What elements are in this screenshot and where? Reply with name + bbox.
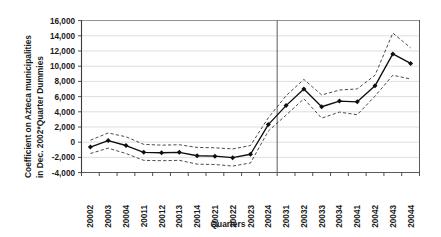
y-tick-labels: 16,000 14,000 12,000 10,000 8,000 6,000 … (50, 17, 75, 178)
y-axis-title: Coefficient on Azteca municipalities in … (23, 35, 45, 178)
y-gridlines (82, 21, 419, 158)
x-tick-label: 20043 (389, 205, 398, 228)
data-point-marker (141, 150, 146, 155)
data-point-marker (212, 154, 217, 159)
y-tick-label: 8,000 (55, 77, 76, 86)
x-tick-label: 20031 (282, 205, 291, 228)
y-tick-label: -4,000 (52, 169, 76, 178)
y-axis (78, 21, 82, 173)
x-tick-label: 20011 (140, 205, 149, 228)
data-point-marker (230, 155, 235, 160)
coefficient-series-markers (88, 51, 413, 160)
x-tick-label: 20041 (353, 205, 362, 228)
y-tick-label: 4,000 (55, 108, 76, 117)
y-tick-label: 10,000 (50, 62, 75, 71)
x-tick-label: 20034 (335, 205, 344, 228)
x-tick-label: 20013 (175, 205, 184, 228)
data-point-marker (337, 99, 342, 104)
y-tick-label: 16,000 (50, 17, 75, 26)
x-tick-label: 20003 (104, 205, 113, 228)
coefficient-line-chart: Coefficient on Azteca municipalities in … (0, 0, 441, 237)
y-axis-title-line2: in Dec. 2002*Quarter Dummies (35, 56, 45, 178)
x-tick-label: 20042 (371, 205, 380, 228)
x-tick-label: 20024 (264, 205, 273, 228)
x-axis-ticks (82, 173, 420, 177)
x-axis-title: Quarters (211, 219, 246, 229)
x-tick-label: 20014 (193, 205, 202, 228)
x-tick-label: 20004 (122, 205, 131, 228)
data-point-marker (159, 150, 164, 155)
data-point-marker (88, 145, 93, 150)
x-tick-labels: 2000220003200042001120012200132001420021… (86, 205, 415, 228)
x-tick-label: 20033 (318, 205, 327, 228)
y-tick-label: 2,000 (55, 123, 76, 132)
y-tick-label: 0 (70, 138, 75, 147)
chart-container: Coefficient on Azteca municipalities in … (0, 0, 441, 237)
y-tick-label: -2,000 (52, 153, 76, 162)
y-axis-title-line1: Coefficient on Azteca municipalities (23, 35, 33, 178)
data-point-marker (408, 61, 413, 66)
y-tick-label: 14,000 (50, 32, 75, 41)
data-point-marker (177, 150, 182, 155)
x-tick-label: 20023 (247, 205, 256, 228)
data-point-marker (123, 143, 128, 148)
x-tick-label: 20002 (86, 205, 95, 228)
y-tick-label: 12,000 (50, 47, 75, 56)
data-point-marker (390, 51, 395, 56)
x-tick-label: 20044 (407, 205, 416, 228)
y-tick-label: 6,000 (55, 93, 76, 102)
x-tick-label: 20032 (300, 205, 309, 228)
x-tick-label: 20012 (158, 205, 167, 228)
upper-confidence-band (90, 33, 410, 149)
